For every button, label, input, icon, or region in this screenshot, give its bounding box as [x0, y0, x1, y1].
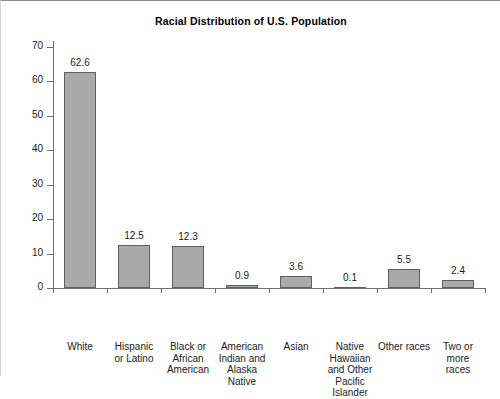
bar-value-label: 62.6	[60, 57, 100, 68]
bar-value-label: 12.5	[114, 230, 154, 241]
y-axis-tick	[47, 219, 53, 220]
bar	[388, 269, 420, 288]
bar	[118, 245, 150, 288]
y-axis-tick-label: 20	[13, 212, 43, 223]
y-axis-tick-label: 70	[13, 40, 43, 51]
x-axis-tick	[215, 288, 216, 293]
bar	[442, 280, 474, 288]
bar-value-label: 0.1	[330, 272, 370, 283]
x-axis-tick	[485, 288, 486, 293]
bar-value-label: 0.9	[222, 270, 262, 281]
bar	[334, 287, 366, 288]
y-axis-tick-label: 50	[13, 109, 43, 120]
bar-value-label: 5.5	[384, 254, 424, 265]
bar	[172, 246, 204, 288]
y-axis-tick	[47, 254, 53, 255]
y-axis-line	[53, 41, 54, 288]
x-axis-tick	[269, 288, 270, 293]
x-axis-tick	[323, 288, 324, 293]
x-axis-category-label: Two ormoreraces	[422, 341, 494, 376]
bar-value-label: 12.3	[168, 231, 208, 242]
bar	[280, 276, 312, 288]
x-axis-tick	[431, 288, 432, 293]
bar	[226, 285, 258, 288]
bar-value-label: 2.4	[438, 265, 478, 276]
y-axis-tick	[47, 150, 53, 151]
y-axis-tick	[47, 47, 53, 48]
x-axis-tick	[107, 288, 108, 293]
y-axis-tick	[47, 185, 53, 186]
y-axis-tick-label: 30	[13, 178, 43, 189]
bar	[64, 72, 96, 288]
y-axis-tick-label: 40	[13, 143, 43, 154]
x-axis-tick	[161, 288, 162, 293]
y-axis-tick-label: 10	[13, 247, 43, 258]
y-axis-tick-label: 60	[13, 74, 43, 85]
x-axis-tick	[53, 288, 54, 293]
x-axis-tick	[377, 288, 378, 293]
y-axis-tick	[47, 116, 53, 117]
plot-area: 010203040506070 62.612.512.30.93.60.15.5…	[53, 47, 485, 288]
y-axis-tick	[47, 81, 53, 82]
bar-value-label: 3.6	[276, 261, 316, 272]
chart-title: Racial Distribution of U.S. Population	[1, 15, 500, 27]
y-axis-tick-label: 0	[13, 281, 43, 292]
